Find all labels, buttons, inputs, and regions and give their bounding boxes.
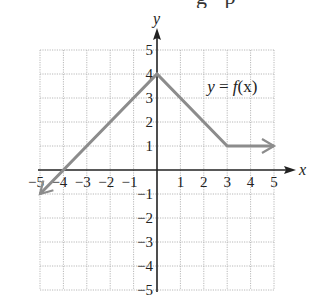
function-label-arg: (x) xyxy=(238,77,258,96)
x-tick-label: −2 xyxy=(98,174,114,190)
y-tick-label: −3 xyxy=(137,234,153,250)
x-axis-label: x xyxy=(298,161,306,178)
x-tick-label: −1 xyxy=(122,174,138,190)
function-label-eq: = xyxy=(215,77,233,96)
function-label: y = f(x) xyxy=(205,77,257,96)
function-graph: −5−4−3−2−11234554321−1−2−3−4−5 x y y = f… xyxy=(0,0,314,303)
y-tick-label: −1 xyxy=(137,186,153,202)
y-tick-label: −2 xyxy=(137,210,153,226)
x-tick-label: 2 xyxy=(200,174,208,190)
x-tick-label: 3 xyxy=(223,174,231,190)
y-tick-label: −4 xyxy=(137,258,153,274)
x-tick-label: −4 xyxy=(51,174,67,190)
y-axis-label: y xyxy=(151,10,161,28)
y-tick-label: −5 xyxy=(137,282,153,298)
y-tick-label: 1 xyxy=(146,138,154,154)
y-tick-label: 3 xyxy=(146,90,154,106)
function-label-y: y xyxy=(205,77,215,96)
x-tick-label: 5 xyxy=(270,174,278,190)
x-tick-label: 4 xyxy=(247,174,255,190)
y-tick-label: 2 xyxy=(146,114,154,130)
y-tick-label: 5 xyxy=(146,42,154,58)
x-tick-label: −3 xyxy=(75,174,91,190)
axes xyxy=(38,28,296,292)
x-tick-label: 1 xyxy=(177,174,185,190)
